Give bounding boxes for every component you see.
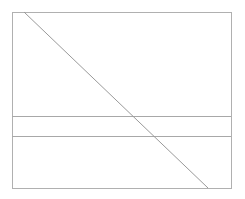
diagram-canvas	[0, 0, 245, 199]
diagonal-line	[24, 12, 208, 188]
diagram-svg	[0, 0, 245, 199]
outer-rectangle	[13, 13, 232, 189]
